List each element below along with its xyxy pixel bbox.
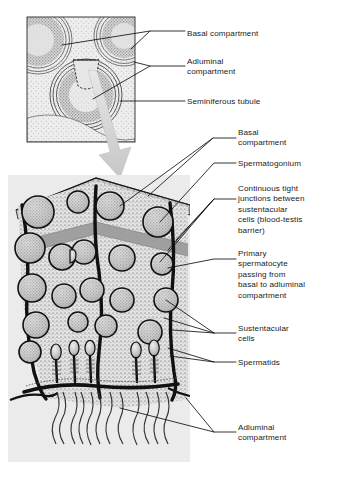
label-basal-compartment: Basal compartment [238, 128, 286, 149]
testis-cross-section-inset [4, 6, 154, 142]
label-inset-seminiferous-tubule: Seminiferous tubule [187, 97, 260, 107]
seminiferous-tubule-figure [0, 0, 340, 483]
seminiferous-epithelium-detail [8, 175, 196, 462]
label-sustentacular-cells: Sustentacular cells [238, 324, 289, 345]
label-spermatids: Spermatids [238, 358, 280, 368]
label-adluminal-compartment: Adluminal compartment [238, 423, 286, 444]
label-inset-adluminal-compartment: Adluminal compartment [187, 57, 235, 78]
label-primary-spermatocyte: Primary spermatocyte passing from basal … [238, 249, 305, 301]
label-tight-junctions: Continuous tight junctions between suste… [238, 184, 305, 236]
label-inset-basal-compartment: Basal compartment [187, 29, 258, 39]
label-spermatogonium: Spermatogonium [238, 159, 301, 169]
